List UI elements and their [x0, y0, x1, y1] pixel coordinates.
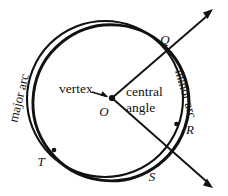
label-center-o: O [99, 104, 109, 119]
point-t-dot [52, 148, 57, 153]
label-point-s: S [149, 169, 156, 184]
label-point-t: T [37, 154, 45, 169]
circle-diagram: O Q R S T vertex central angle minor arc… [0, 0, 228, 196]
label-point-q: Q [160, 32, 170, 47]
diagram-canvas: O Q R S T vertex central angle minor arc… [0, 0, 228, 196]
label-central-angle-line2: angle [126, 100, 155, 115]
point-r-dot [174, 122, 179, 127]
label-central-angle-line1: central [126, 84, 163, 99]
label-point-r: R [185, 122, 194, 137]
label-minor-arc: minor arc [172, 68, 200, 121]
center-point-dot [109, 95, 115, 101]
label-vertex: vertex [59, 81, 93, 96]
